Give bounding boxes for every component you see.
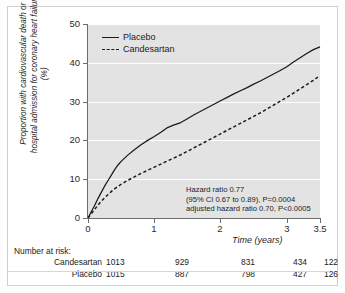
risk-row-label-candesartan: Candesartan <box>14 257 102 267</box>
statistics-annotation: Hazard ratio 0.77 (95% CI 0.67 to 0.89),… <box>186 185 311 214</box>
y-tick-label-0-wrap: 0 <box>58 213 80 223</box>
y-tick-mark-10 <box>83 179 88 180</box>
x-tick-label-1: 1 <box>142 224 166 234</box>
risk-value-candesartan-0: 1013 <box>106 257 134 267</box>
y-axis-title: Proportion with cardiovascular death or … <box>19 0 51 159</box>
y-tick-label-10-wrap: 10 <box>58 174 80 184</box>
legend-item-candesartan: Candesartan <box>102 43 175 54</box>
y-tick-mark-30 <box>83 102 88 103</box>
risk-value-candesartan-2: 831 <box>241 257 269 267</box>
y-tick-label-30-wrap: 30 <box>58 97 80 107</box>
x-tick-label-3: 3 <box>275 224 299 234</box>
x-tick-label-3p5: 3.5 <box>308 224 332 234</box>
x-tick-label-2: 2 <box>208 224 232 234</box>
risk-value-candesartan-4: 122 <box>324 257 345 267</box>
y-tick-label-50-wrap: 50 <box>58 19 80 29</box>
hazard-ratio-line: Hazard ratio 0.77 <box>186 185 311 195</box>
y-tick-label-10: 10 <box>69 174 80 183</box>
y-tick-mark-40 <box>83 63 88 64</box>
risk-value-candesartan-1: 929 <box>175 257 203 267</box>
y-tick-mark-50 <box>83 24 88 25</box>
legend-dashed-line-icon <box>102 45 119 53</box>
risk-table-title: Number at risk: <box>14 246 71 256</box>
risk-value-candesartan-3: 434 <box>293 257 321 267</box>
bottom-divider <box>8 271 330 272</box>
y-tick-label-30: 30 <box>69 97 80 106</box>
x-axis-title: Time (years) <box>232 235 282 245</box>
legend-item-placebo: Placebo <box>102 31 175 42</box>
y-tick-label-0: 0 <box>75 213 80 222</box>
y-tick-label-40: 40 <box>69 58 80 67</box>
figure-container: 50 40 30 20 10 0 0 1 2 3 3.5 Proportion … <box>0 0 345 293</box>
legend-label-candesartan: Candesartan <box>123 44 175 54</box>
x-axis-line <box>87 218 321 219</box>
y-tick-label-50: 50 <box>69 19 80 28</box>
adjusted-hazard-ratio-line: adjusted hazard ratio 0.70, P<0.0005 <box>186 204 311 214</box>
table-row: Candesartan 1013 929 831 434 122 <box>14 257 324 268</box>
legend-label-placebo: Placebo <box>123 32 156 42</box>
y-tick-label-20-wrap: 20 <box>58 135 80 145</box>
legend-solid-line-icon <box>102 33 119 41</box>
y-tick-label-40-wrap: 40 <box>58 58 80 68</box>
x-tick-label-0: 0 <box>76 224 100 234</box>
y-tick-label-20: 20 <box>69 135 80 144</box>
confidence-interval-line: (95% CI 0.67 to 0.89), P=0.0004 <box>186 195 311 205</box>
y-tick-mark-20 <box>83 140 88 141</box>
chart-legend: Placebo Candesartan <box>102 31 175 55</box>
y-axis-line <box>87 24 88 219</box>
